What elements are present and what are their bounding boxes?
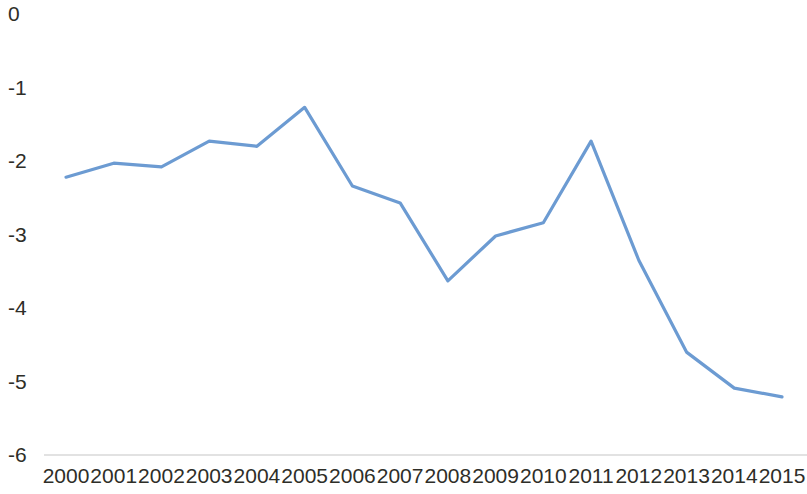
chart-svg	[0, 0, 807, 494]
x-axis-tick-label: 2009	[472, 464, 519, 487]
x-axis-tick-label: 2014	[711, 464, 758, 487]
x-axis-tick-label: 2013	[663, 464, 710, 487]
x-axis-tick-label: 2008	[425, 464, 472, 487]
line-chart: 0-1-2-3-4-5-6 20002001200220032004200520…	[0, 0, 807, 494]
x-axis-tick-label: 2010	[520, 464, 567, 487]
x-axis-tick-label: 2000	[43, 464, 90, 487]
x-axis-tick-label: 2003	[186, 464, 233, 487]
x-axis-tick-label: 2012	[615, 464, 662, 487]
plot-area	[0, 0, 807, 494]
x-axis-tick-label: 2007	[377, 464, 424, 487]
x-axis-tick-label: 2011	[568, 464, 613, 487]
x-axis-tick-label: 2002	[138, 464, 185, 487]
x-axis-tick-label: 2006	[329, 464, 376, 487]
x-axis-tick-label: 2015	[759, 464, 806, 487]
data-series-line	[66, 107, 782, 397]
x-axis-tick-label: 2004	[234, 464, 281, 487]
x-axis-tick-label: 2001	[90, 464, 137, 487]
x-axis-tick-label: 2005	[281, 464, 328, 487]
